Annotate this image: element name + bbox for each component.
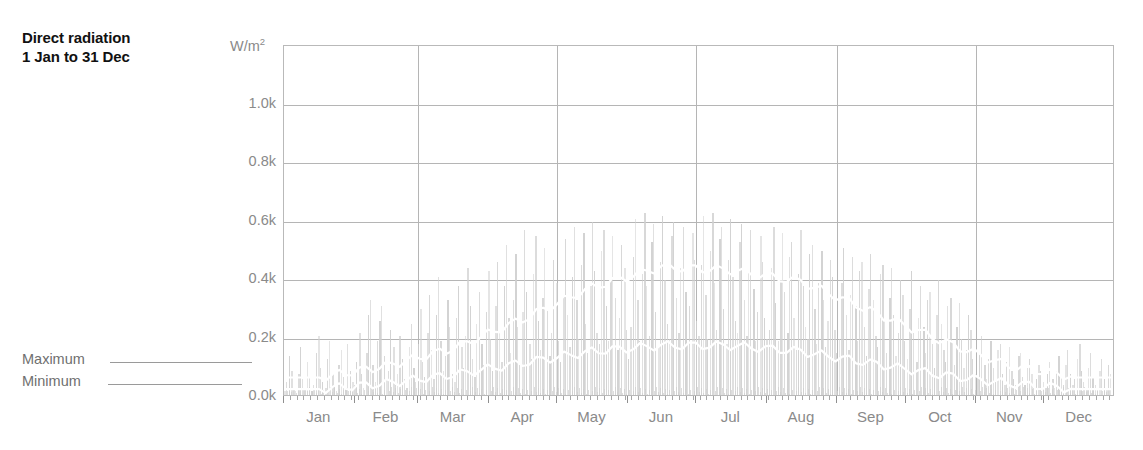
x-axis-minor-tick <box>829 396 830 400</box>
x-axis-minor-tick <box>959 396 960 400</box>
x-axis-minor-tick <box>529 396 530 400</box>
x-axis-minor-tick <box>358 396 359 400</box>
x-axis-minor-tick <box>1103 396 1104 400</box>
x-axis-major-tick <box>283 396 284 403</box>
x-axis-minor-tick <box>338 396 339 400</box>
x-axis-minor-tick <box>577 396 578 400</box>
legend-label-minimum: Minimum <box>22 373 81 389</box>
x-axis-major-tick <box>1043 396 1044 403</box>
x-axis-ticks <box>283 396 1115 403</box>
x-axis-minor-tick <box>761 396 762 400</box>
x-axis-major-tick <box>975 396 976 403</box>
x-axis-minor-tick <box>570 396 571 400</box>
y-axis-tick-label: 0.8k <box>212 153 276 169</box>
x-axis-minor-tick <box>1109 396 1110 400</box>
x-axis-minor-tick <box>618 396 619 400</box>
minimum-trend-line <box>284 341 1113 393</box>
x-axis-minor-tick <box>1055 396 1056 400</box>
x-axis-minor-tick <box>700 396 701 400</box>
x-axis-minor-tick <box>344 396 345 400</box>
chart-page: Direct radiation 1 Jan to 31 Dec W/m2 1.… <box>0 0 1143 450</box>
x-axis-minor-tick <box>768 396 769 400</box>
x-axis-minor-tick <box>1021 396 1022 400</box>
y-axis-tick-label: 1.0k <box>212 95 276 111</box>
x-axis-minor-tick <box>891 396 892 400</box>
legend-label-maximum: Maximum <box>22 351 85 367</box>
x-axis-minor-tick <box>385 396 386 400</box>
x-axis-minor-tick <box>679 396 680 400</box>
x-axis-minor-tick <box>843 396 844 400</box>
x-axis-tick-label: Jan <box>306 408 330 425</box>
x-axis-minor-tick <box>952 396 953 400</box>
x-axis-tick-label: Oct <box>928 408 951 425</box>
x-axis-minor-tick <box>584 396 585 400</box>
x-axis-tick-label: Aug <box>788 408 815 425</box>
x-axis-minor-tick <box>515 396 516 400</box>
x-axis-minor-tick <box>850 396 851 400</box>
x-axis-minor-tick <box>727 396 728 400</box>
x-axis-minor-tick <box>918 396 919 400</box>
x-axis-minor-tick <box>987 396 988 400</box>
x-axis-minor-tick <box>406 396 407 400</box>
x-axis-minor-tick <box>597 396 598 400</box>
x-axis-minor-tick <box>351 396 352 400</box>
x-axis-minor-tick <box>317 396 318 400</box>
y-axis-tick-label: 0.0k <box>212 387 276 403</box>
y-axis-tick-label: 0.2k <box>212 329 276 345</box>
x-axis-minor-tick <box>659 396 660 400</box>
x-axis-minor-tick <box>1096 396 1097 400</box>
x-axis-tick-label: Mar <box>440 408 466 425</box>
x-axis-major-tick <box>836 396 837 403</box>
x-axis-major-tick <box>488 396 489 403</box>
x-axis-minor-tick <box>857 396 858 400</box>
x-axis-tick-label: Sep <box>857 408 884 425</box>
x-axis-minor-tick <box>1062 396 1063 400</box>
x-axis-minor-tick <box>297 396 298 400</box>
x-axis-minor-tick <box>324 396 325 400</box>
x-axis-minor-tick <box>713 396 714 400</box>
x-axis-minor-tick <box>823 396 824 400</box>
x-axis-minor-tick <box>461 396 462 400</box>
x-axis-minor-tick <box>809 396 810 400</box>
x-axis-minor-tick <box>911 396 912 400</box>
trend-lines-overlay <box>284 46 1113 395</box>
x-axis-minor-tick <box>993 396 994 400</box>
x-axis-minor-tick <box>741 396 742 400</box>
x-axis-minor-tick <box>802 396 803 400</box>
x-axis-minor-tick <box>543 396 544 400</box>
x-axis-tick-label: Jun <box>649 408 673 425</box>
x-axis-minor-tick <box>454 396 455 400</box>
x-axis-major-tick <box>766 396 767 403</box>
x-axis-minor-tick <box>413 396 414 400</box>
x-axis-minor-tick <box>379 396 380 400</box>
x-axis-minor-tick <box>665 396 666 400</box>
x-axis-minor-tick <box>1075 396 1076 400</box>
x-axis-major-tick <box>354 396 355 403</box>
x-axis-minor-tick <box>1068 396 1069 400</box>
x-axis-minor-tick <box>440 396 441 400</box>
x-axis-major-tick <box>417 396 418 403</box>
x-axis-minor-tick <box>447 396 448 400</box>
x-axis-minor-tick <box>672 396 673 400</box>
x-axis-tick-label: Dec <box>1065 408 1092 425</box>
x-axis-minor-tick <box>549 396 550 400</box>
x-axis-tick-label: Jul <box>721 408 740 425</box>
x-axis-minor-tick <box>747 396 748 400</box>
x-axis-minor-tick <box>290 396 291 400</box>
x-axis-major-tick <box>556 396 557 403</box>
y-axis-tick-labels: 1.0k0.8k0.6k0.4k0.2k0.0k <box>210 0 276 450</box>
x-axis-minor-tick <box>331 396 332 400</box>
x-axis-minor-tick <box>495 396 496 400</box>
x-axis-minor-tick <box>536 396 537 400</box>
x-axis-minor-tick <box>365 396 366 400</box>
legend-leader-line-maximum <box>110 362 252 363</box>
page-title: Direct radiation 1 Jan to 31 Dec <box>22 28 130 66</box>
plot-area <box>283 45 1114 396</box>
x-axis-minor-tick <box>522 396 523 400</box>
x-axis-minor-tick <box>563 396 564 400</box>
x-axis-minor-tick <box>870 396 871 400</box>
x-axis-minor-tick <box>1048 396 1049 400</box>
x-axis-minor-tick <box>590 396 591 400</box>
x-axis-minor-tick <box>420 396 421 400</box>
x-axis-minor-tick <box>782 396 783 400</box>
